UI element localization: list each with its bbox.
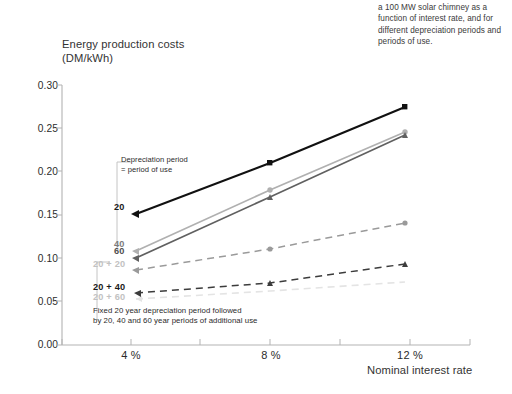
y-tick-label-010: 0.10 [18,253,58,264]
y-tick-label-005: 0.05 [18,296,58,307]
chart-page: a 100 MW solar chimney as a function of … [0,0,512,394]
y-tick-label-015: 0.15 [18,209,58,220]
series-line-20-60 [136,282,405,302]
y-tick-label-025: 0.25 [18,123,58,134]
x-tick-label-8: 8 % [248,349,294,361]
annotation-group1-line2: = period of use [121,165,172,174]
annotation-group2-line1: Fixed 20 year depreciation period follow… [93,306,242,315]
series-label-20-40: 20 + 40 [93,282,125,292]
y-axis-title-line1: Energy production costs [62,38,184,50]
x-axis-title: Nominal interest rate [367,364,472,376]
x-axis-ticks [62,339,470,345]
y-axis-title: Energy production costs (DM/kWh) [62,38,292,65]
annotation-group2: Fixed 20 year depreciation period follow… [93,306,257,327]
annotation-group1: Depreciation period = period of use [121,155,241,174]
annotation-group1-line1: Depreciation period [121,155,188,164]
series-label-20-20: 20 + 20 [93,259,125,269]
series-line-60 [132,132,408,262]
series-line-20-40 [134,261,408,297]
x-tick-label-12: 12 % [387,349,433,361]
y-tick-label-030: 0.30 [18,80,58,91]
x-tick-label-4: 4 % [108,349,154,361]
series-label-60: 60 [114,246,125,256]
series-label-20: 20 [114,202,125,212]
top-caption: a 100 MW solar chimney as a function of … [378,2,510,48]
series-line-20-20 [132,220,408,274]
y-tick-label-020: 0.20 [18,166,58,177]
series-label-20-60: 20 + 60 [93,292,125,302]
y-axis-title-line2: (DM/kWh) [62,52,113,64]
y-tick-label-000: 0.00 [18,339,58,350]
series-line-40 [132,129,408,255]
annotation-group2-line2: by 20, 40 and 60 year periods of additio… [93,316,257,325]
